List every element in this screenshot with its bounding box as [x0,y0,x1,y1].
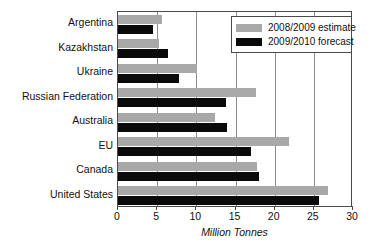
bar-argentina-estimate [118,15,162,24]
legend-label: 2009/2010 forecast [268,36,354,47]
bar-group [118,61,351,86]
bar-kazakhstan-forecast [118,49,168,58]
y-axis-label-australia: Australia [72,115,113,126]
bar-canada-estimate [118,162,257,171]
x-tick-0: 0 [114,210,120,222]
y-axis-label-russian-federation: Russian Federation [22,91,113,102]
y-axis-label-kazakhstan: Kazakhstan [58,42,113,53]
x-axis-tick-labels: 051015202530 [117,210,352,224]
x-tick-5: 5 [153,210,159,222]
bar-eu-forecast [118,147,251,156]
x-tick-10: 10 [189,210,201,222]
legend-item-estimate: 2008/2009 estimate [236,21,347,34]
bar-russian-federation-estimate [118,88,256,97]
legend-label: 2008/2009 estimate [268,22,356,33]
bar-chart: ArgentinaKazakhstanUkraineRussian Federa… [0,0,374,252]
bar-canada-forecast [118,172,259,181]
y-axis-label-ukraine: Ukraine [77,66,113,77]
bar-group [118,184,351,209]
x-tick-mark [117,206,118,210]
y-axis-label-argentina: Argentina [68,17,113,28]
x-tick-30: 30 [346,210,358,222]
bar-united-states-forecast [118,196,319,205]
x-axis-title: Million Tonnes [117,226,352,238]
bar-united-states-estimate [118,186,328,195]
x-tick-mark [274,206,275,210]
legend-item-forecast: 2009/2010 forecast [236,35,347,48]
legend-swatch-icon [236,24,262,32]
bar-group [118,110,351,135]
y-axis-category-labels: ArgentinaKazakhstanUkraineRussian Federa… [0,11,113,207]
x-tick-mark [156,206,157,210]
x-tick-mark [195,206,196,210]
y-axis-label-united-states: United States [50,189,113,200]
bar-group [118,86,351,111]
x-tick-mark [352,206,353,210]
y-axis-label-eu: EU [98,140,113,151]
bar-kazakhstan-estimate [118,39,159,48]
bar-ukraine-forecast [118,74,179,83]
bar-eu-estimate [118,137,289,146]
bar-ukraine-estimate [118,64,197,73]
bar-russian-federation-forecast [118,98,226,107]
x-tick-25: 25 [307,210,319,222]
bar-group [118,159,351,184]
x-tick-20: 20 [268,210,280,222]
bar-australia-estimate [118,113,215,122]
bar-argentina-forecast [118,25,153,34]
y-axis-label-canada: Canada [76,164,113,175]
bar-australia-forecast [118,123,227,132]
legend-swatch-icon [236,38,262,46]
x-tick-mark [235,206,236,210]
x-tick-mark [313,206,314,210]
x-tick-15: 15 [229,210,241,222]
bar-group [118,135,351,160]
chart-legend: 2008/2009 estimate2009/2010 forecast [231,16,352,53]
